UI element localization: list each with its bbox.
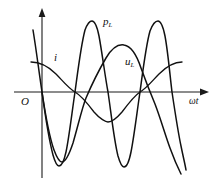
y-axis-arrowhead bbox=[39, 8, 46, 17]
curve-label-power: pL bbox=[103, 16, 112, 28]
curve-power-p-l bbox=[42, 21, 186, 170]
x-axis-arrowhead bbox=[200, 89, 209, 96]
curve-label-current: i bbox=[54, 52, 57, 63]
curve-label-voltage: uL bbox=[125, 56, 134, 68]
x-axis bbox=[14, 89, 209, 96]
x-axis-label-omega-t: ωt bbox=[189, 97, 198, 107]
origin-label: O bbox=[21, 96, 29, 107]
inductor-waveform-figure: pL uL i O ωt bbox=[0, 0, 216, 183]
